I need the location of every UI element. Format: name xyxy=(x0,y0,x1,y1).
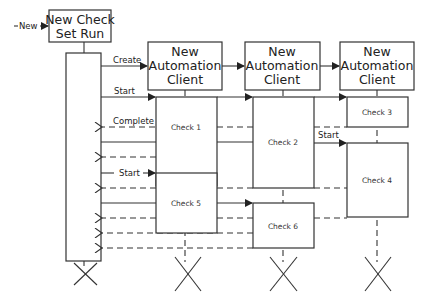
initiator-line2: Set Run xyxy=(56,26,104,41)
check-6: Check 6 xyxy=(253,203,314,248)
start-label: Start xyxy=(114,86,135,96)
complete-label: Complete xyxy=(113,116,154,126)
check-5: Check 5 xyxy=(156,173,217,233)
svg-text:Automation: Automation xyxy=(341,58,414,73)
start-check4-label: Start xyxy=(318,130,339,140)
destroy-mark-2 xyxy=(270,257,297,291)
initiator-line1: New Check xyxy=(45,12,115,27)
svg-text:Automation: Automation xyxy=(246,58,319,73)
check-4: Check 4 xyxy=(347,143,408,217)
participant-header-3: New Automation Client xyxy=(340,42,414,90)
svg-text:Automation: Automation xyxy=(149,58,222,73)
svg-text:New: New xyxy=(363,44,390,59)
svg-text:New: New xyxy=(171,44,198,59)
destroy-mark-initiator xyxy=(74,261,97,285)
initiator-activation xyxy=(66,53,101,261)
destroy-mark-3 xyxy=(365,257,391,291)
sequence-diagram: New New Check Set Run New Automation Cli… xyxy=(0,0,426,305)
check-2: Check 2 xyxy=(253,97,314,188)
entry-label: New xyxy=(19,21,38,31)
svg-text:New: New xyxy=(268,44,295,59)
svg-text:Client: Client xyxy=(359,72,395,87)
create-label: Create xyxy=(113,55,141,65)
destroy-mark-1 xyxy=(175,257,201,291)
participant-header-2: New Automation Client xyxy=(245,42,320,90)
svg-text:Check 5: Check 5 xyxy=(171,199,201,208)
svg-text:Check 2: Check 2 xyxy=(268,138,298,147)
svg-text:Check 1: Check 1 xyxy=(171,123,201,132)
entry-message: New xyxy=(14,21,48,31)
start-check5-label: Start xyxy=(119,168,140,178)
svg-text:Check 4: Check 4 xyxy=(362,176,392,185)
participant-header-1: New Automation Client xyxy=(148,42,222,90)
check-3: Check 3 xyxy=(347,97,408,127)
svg-text:Check 3: Check 3 xyxy=(362,108,392,117)
initiator-header: New Check Set Run xyxy=(45,10,115,42)
svg-text:Client: Client xyxy=(167,72,203,87)
svg-text:Check 6: Check 6 xyxy=(268,222,298,231)
svg-text:Client: Client xyxy=(264,72,300,87)
